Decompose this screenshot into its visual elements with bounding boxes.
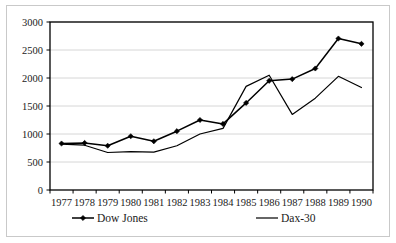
- data-point-marker: [128, 134, 133, 139]
- line-chart: 300025002000150010005000 197719781979198…: [0, 0, 396, 243]
- x-tick-label: 1989: [328, 197, 349, 208]
- y-tick-label: 2500: [22, 45, 43, 56]
- y-tick-label: 2000: [22, 73, 43, 84]
- chart-legend: Dow JonesDax-30: [72, 212, 316, 224]
- x-tick-label: 1982: [166, 197, 187, 208]
- x-tick-label: 1984: [213, 197, 235, 208]
- data-point-marker: [151, 139, 156, 144]
- data-point-marker: [359, 41, 364, 46]
- data-point-marker: [290, 77, 295, 82]
- y-tick-label: 3000: [22, 17, 43, 28]
- x-tick-label: 1980: [120, 197, 141, 208]
- legend-label: Dow Jones: [97, 212, 148, 224]
- x-tick-label: 1977: [51, 197, 72, 208]
- legend-swatch-marker: [80, 215, 85, 220]
- gridlines: [50, 22, 373, 162]
- y-tick-label: 500: [27, 157, 43, 168]
- x-tick-label: 1981: [143, 197, 164, 208]
- x-tick-label: 1986: [259, 197, 280, 208]
- y-tick-label: 0: [38, 185, 43, 196]
- x-tick-label: 1983: [189, 197, 210, 208]
- y-axis-tick-labels: 300025002000150010005000: [22, 17, 50, 196]
- series-line-dax-30: [62, 75, 362, 152]
- x-tick-label: 1990: [351, 197, 372, 208]
- x-tick-label: 1987: [282, 197, 303, 208]
- x-tick-label: 1979: [97, 197, 118, 208]
- y-tick-label: 1000: [22, 129, 43, 140]
- legend-label: Dax-30: [281, 212, 316, 224]
- x-tick-label: 1978: [74, 197, 95, 208]
- x-tick-label: 1985: [236, 197, 257, 208]
- data-series-layer: [59, 36, 364, 153]
- data-point-marker: [174, 129, 179, 134]
- y-tick-label: 1500: [22, 101, 43, 112]
- data-point-marker: [105, 143, 110, 148]
- x-tick-label: 1988: [305, 197, 326, 208]
- x-axis-tick-labels: 1977197819791980198119821983198419851986…: [51, 197, 372, 208]
- series-line-dow-jones: [62, 39, 362, 146]
- data-point-marker: [197, 117, 202, 122]
- chart-figure: 300025002000150010005000 197719781979198…: [0, 0, 396, 243]
